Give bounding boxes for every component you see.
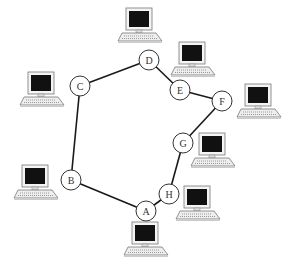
node-label: A bbox=[142, 206, 150, 217]
node-B: B bbox=[61, 170, 81, 190]
link-B-C bbox=[71, 86, 80, 180]
node-E: E bbox=[170, 80, 190, 100]
desktop-computer-icon bbox=[171, 42, 215, 77]
node-A: A bbox=[136, 201, 156, 221]
ring-network-diagram: ABCDEFGH bbox=[0, 0, 292, 266]
desktop-computer-icon bbox=[14, 165, 58, 200]
node-label: C bbox=[77, 81, 84, 92]
node-label: F bbox=[219, 96, 225, 107]
desktop-computer-icon bbox=[124, 222, 168, 257]
node-C: C bbox=[70, 76, 90, 96]
node-label: B bbox=[68, 175, 75, 186]
node-label: H bbox=[165, 189, 172, 200]
node-H: H bbox=[159, 184, 179, 204]
node-label: E bbox=[177, 85, 183, 96]
node-F: F bbox=[212, 91, 232, 111]
desktop-computer-icon bbox=[191, 133, 235, 168]
desktop-computer-icon bbox=[237, 84, 281, 119]
link-C-D bbox=[80, 60, 149, 86]
desktop-computer-icon bbox=[20, 72, 64, 107]
desktop-computer-icon bbox=[176, 186, 220, 221]
link-A-B bbox=[71, 180, 146, 211]
node-D: D bbox=[139, 50, 159, 70]
node-G: G bbox=[173, 133, 193, 153]
node-label: G bbox=[179, 138, 186, 149]
node-label: D bbox=[145, 55, 152, 66]
desktop-computer-icon bbox=[118, 8, 162, 43]
